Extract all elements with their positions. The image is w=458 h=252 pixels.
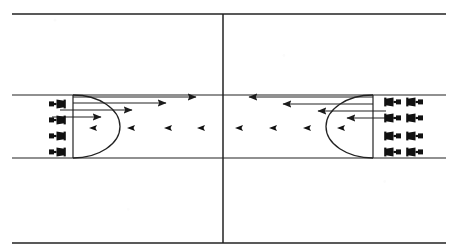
right-movement-arrows [249, 97, 394, 118]
left-figure-group [49, 99, 66, 156]
trail-marker-4 [337, 125, 345, 131]
figure-body [408, 97, 416, 106]
diagram-canvas [0, 0, 458, 252]
left-figure-2 [49, 115, 66, 124]
figure-neck [394, 117, 397, 119]
figure-base [384, 98, 386, 107]
left-arc [73, 95, 120, 158]
figure-body [57, 131, 65, 140]
frame [12, 14, 446, 243]
diagram-svg [0, 0, 458, 252]
figure-body [386, 113, 394, 122]
figure-neck [416, 101, 419, 103]
figure-neck [416, 135, 419, 137]
figure-body [408, 147, 416, 156]
figure-head [418, 99, 423, 104]
figure-base [384, 114, 386, 123]
trail-marker-3 [164, 125, 172, 131]
trail-marker-1 [89, 125, 97, 131]
left-figure-4 [49, 147, 66, 156]
trail-marker-2 [127, 125, 135, 131]
figure-neck [416, 151, 419, 153]
figure-neck [54, 135, 57, 137]
right-trail-markers [235, 125, 345, 131]
right-figure-r3c2 [406, 131, 423, 140]
figure-body [408, 113, 416, 122]
figure-base [406, 132, 408, 141]
figure-base [64, 148, 66, 157]
right-figure-r1c2 [406, 97, 423, 106]
figure-body [386, 131, 394, 140]
trail-marker-3 [303, 125, 311, 131]
figure-head [396, 149, 401, 154]
right-figure-group [384, 97, 423, 156]
corridor-lines [12, 95, 446, 158]
figure-body [408, 131, 416, 140]
figure-head [418, 149, 423, 154]
figure-head [49, 133, 54, 138]
figure-body [57, 99, 65, 108]
figure-body [57, 115, 65, 124]
left-arc-group [73, 95, 120, 158]
figure-head [49, 149, 54, 154]
left-figure-1 [49, 99, 66, 108]
trail-marker-4 [197, 125, 205, 131]
figure-head [396, 99, 401, 104]
figure-neck [416, 117, 419, 119]
figure-neck [394, 151, 397, 153]
figure-base [64, 100, 66, 109]
right-figure-r2c2 [406, 113, 423, 122]
trail-marker-2 [269, 125, 277, 131]
figure-base [406, 148, 408, 157]
trail-marker-1 [235, 125, 243, 131]
figure-head [49, 101, 54, 106]
right-figure-r4c2 [406, 147, 423, 156]
figure-base [64, 132, 66, 141]
figure-head [396, 115, 401, 120]
figure-head [418, 133, 423, 138]
figure-head [396, 133, 401, 138]
figure-neck [394, 135, 397, 137]
left-figure-3 [49, 131, 66, 140]
figure-base [384, 132, 386, 141]
figure-neck [54, 103, 57, 105]
right-figure-r1c1 [384, 97, 401, 106]
figure-body [386, 147, 394, 156]
figure-neck [54, 151, 57, 153]
figure-neck [54, 119, 57, 121]
figure-base [384, 148, 386, 157]
right-figure-r3c1 [384, 131, 401, 140]
figure-neck [394, 101, 397, 103]
figure-body [57, 147, 65, 156]
figure-base [406, 98, 408, 107]
figure-base [406, 114, 408, 123]
figure-base [64, 116, 66, 125]
left-trail-markers [89, 125, 205, 131]
figure-body [386, 97, 394, 106]
right-figure-r4c1 [384, 147, 401, 156]
right-figure-r2c1 [384, 113, 401, 122]
figure-head [418, 115, 423, 120]
figure-head [49, 117, 54, 122]
